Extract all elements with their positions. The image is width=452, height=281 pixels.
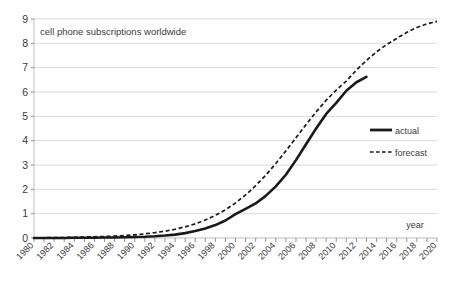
y-tick-label-4: 4 <box>22 134 28 146</box>
legend-label-forecast: forecast <box>395 148 428 158</box>
y-tick-label-1: 1 <box>22 207 28 219</box>
x-axis-title: year <box>406 220 424 230</box>
y-tick-label-7: 7 <box>22 61 28 73</box>
line-chart-canvas: 0123456789 19801982198419861988199019921… <box>0 0 452 281</box>
chart-title: cell phone subscriptions worldwide <box>40 26 186 37</box>
y-tick-label-3: 3 <box>22 159 28 171</box>
y-tick-label-9: 9 <box>22 13 28 25</box>
y-tick-label-2: 2 <box>22 183 28 195</box>
y-tick-label-5: 5 <box>22 110 28 122</box>
y-tick-label-8: 8 <box>22 37 28 49</box>
y-tick-label-6: 6 <box>22 86 28 98</box>
legend-label-actual: actual <box>395 126 419 136</box>
chart-figure: 0123456789 19801982198419861988199019921… <box>0 0 452 281</box>
